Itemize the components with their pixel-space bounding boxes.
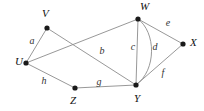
graph-vertex-V [44, 25, 49, 30]
graph-vertex-Y [133, 82, 138, 87]
graph-vertex-W [135, 16, 140, 21]
graph-edge-c [136, 19, 138, 85]
edge-label-h: h [42, 75, 47, 86]
edge-label-a: a [30, 35, 35, 46]
vertex-labels-layer: VUWXYZ [15, 0, 198, 106]
edge-labels-layer: abcdefgh [30, 17, 171, 87]
edge-label-f: f [162, 67, 166, 78]
graph-diagram-svg: abcdefgh VUWXYZ [0, 0, 204, 111]
edge-label-g: g [97, 76, 102, 87]
edge-label-d: d [153, 41, 159, 52]
edge-label-e: e [166, 17, 171, 28]
vertex-label-V: V [42, 7, 50, 19]
edge-label-c: c [131, 41, 136, 52]
graph-edge-f [136, 44, 183, 85]
graph-vertex-Z [72, 85, 77, 90]
vertex-label-Y: Y [134, 92, 142, 104]
graph-edge-b [26, 19, 138, 63]
graph-edge-h [26, 63, 75, 88]
vertex-label-X: X [189, 36, 198, 48]
vertex-label-Z: Z [70, 94, 77, 106]
graph-edge-d [136, 19, 152, 85]
graph-vertex-X [180, 41, 185, 46]
vertices-layer [23, 16, 185, 90]
graph-edge-vy [47, 28, 136, 85]
graph-vertex-U [23, 60, 28, 65]
edges-layer [26, 19, 183, 88]
vertex-label-U: U [15, 55, 24, 67]
vertex-label-W: W [140, 0, 150, 12]
edge-label-b: b [100, 45, 105, 56]
graph-diagram-canvas: abcdefgh VUWXYZ [0, 0, 204, 111]
graph-edge-e [138, 19, 183, 44]
graph-edge-g [75, 85, 136, 88]
